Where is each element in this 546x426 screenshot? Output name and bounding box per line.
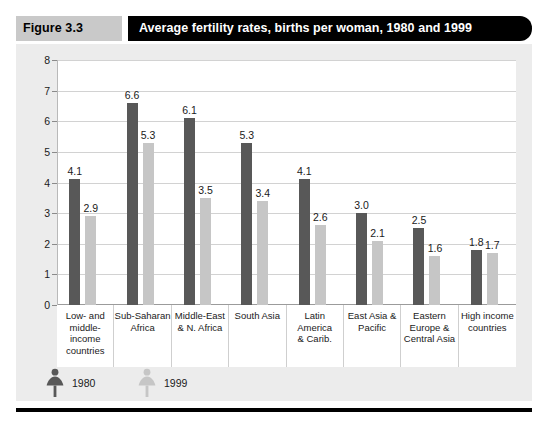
bar-1980 <box>471 250 482 305</box>
y-axis-tick-label: 5 <box>16 147 50 158</box>
bar-1980 <box>413 228 424 305</box>
y-axis-tick-mark <box>52 213 57 214</box>
bottom-rule <box>16 408 532 412</box>
female-figure-icon <box>136 368 158 398</box>
bar-value-label: 2.1 <box>361 228 395 239</box>
x-axis-category-label: Middle-East & N. Africa <box>175 310 225 333</box>
figure-container: Figure 3.3 Average fertility rates, birt… <box>0 0 546 426</box>
legend-label: 1980 <box>72 378 95 389</box>
y-axis-tick-label: 6 <box>16 116 50 127</box>
y-axis-tick-mark <box>52 274 57 275</box>
y-axis-tick-label: 7 <box>16 86 50 97</box>
bar-value-label: 4.1 <box>58 166 92 177</box>
y-axis-tick-label: 0 <box>16 300 50 311</box>
bar-1980 <box>184 118 195 305</box>
y-axis-tick-label: 1 <box>16 269 50 280</box>
chart-panel: 4.12.96.65.36.13.55.33.44.12.63.02.12.51… <box>16 44 532 401</box>
bar-group: 5.33.4 <box>230 60 287 305</box>
bar-1999 <box>257 201 268 305</box>
x-axis-category-label: East Asia & Pacific <box>348 310 397 333</box>
y-axis-tick-mark <box>52 183 57 184</box>
y-axis-tick-mark <box>52 121 57 122</box>
bar-1999 <box>85 216 96 305</box>
y-axis-tick-label: 3 <box>16 208 50 219</box>
x-axis-category-label: Low- and middle- income countries <box>66 310 105 356</box>
y-axis-tick-mark <box>52 152 57 153</box>
bar-group: 4.12.9 <box>58 60 115 305</box>
legend-item-1980: 1980 <box>44 366 95 400</box>
bar-group: 1.81.7 <box>460 60 517 305</box>
x-axis-category-cell: Low- and middle- income countries <box>57 305 114 367</box>
figure-number-label: Figure 3.3 <box>16 16 122 41</box>
bar-1999 <box>143 143 154 305</box>
bar-value-label: 5.3 <box>230 130 264 141</box>
bar-value-label: 1.6 <box>418 243 452 254</box>
bar-1999 <box>372 241 383 305</box>
legend-item-1999: 1999 <box>136 366 187 400</box>
page-title: Average fertility rates, births per woma… <box>139 16 472 41</box>
y-axis-tick-mark <box>52 244 57 245</box>
bar-value-label: 4.1 <box>287 166 321 177</box>
bar-groups: 4.12.96.65.36.13.55.33.44.12.63.02.12.51… <box>58 60 516 305</box>
bar-value-label: 6.6 <box>115 90 149 101</box>
bar-group: 4.12.6 <box>288 60 345 305</box>
x-axis-category-cell: Eastern Europe & Central Asia <box>401 305 458 367</box>
bar-value-label: 3.0 <box>345 200 379 211</box>
y-axis-tick-mark <box>52 91 57 92</box>
x-axis-category-cell: East Asia & Pacific <box>344 305 401 367</box>
bar-1999 <box>487 253 498 305</box>
figure-header: Figure 3.3 Average fertility rates, birt… <box>16 16 532 41</box>
x-axis-category-cell: Latin America & Carib. <box>287 305 344 367</box>
bar-1999 <box>315 225 326 305</box>
bar-value-label: 1.7 <box>475 240 509 251</box>
bar-value-label: 3.5 <box>188 185 222 196</box>
x-axis-category-cell: Middle-East & N. Africa <box>172 305 229 367</box>
bar-group: 3.02.1 <box>345 60 402 305</box>
x-axis-category-cell: South Asia <box>229 305 286 367</box>
bar-value-label: 6.1 <box>172 105 206 116</box>
bar-value-label: 5.3 <box>131 130 165 141</box>
female-figure-icon <box>44 368 66 398</box>
bar-group: 6.65.3 <box>115 60 172 305</box>
bar-1980 <box>69 179 80 305</box>
bar-1980 <box>241 143 252 305</box>
y-axis-tick-label: 8 <box>16 55 50 66</box>
bar-value-label: 2.6 <box>303 212 337 223</box>
x-axis-category-label: Sub-Saharan Africa <box>115 310 171 333</box>
bar-1999 <box>429 256 440 305</box>
bar-value-label: 2.9 <box>74 203 108 214</box>
plot-area: 4.12.96.65.36.13.55.33.44.12.63.02.12.51… <box>57 60 516 305</box>
bar-value-label: 2.5 <box>402 215 436 226</box>
chart-legend: 19801999 <box>44 366 344 400</box>
bar-1999 <box>200 198 211 305</box>
legend-label: 1999 <box>164 378 187 389</box>
x-axis-category-cell: Sub-Saharan Africa <box>114 305 171 367</box>
x-axis-category-label: South Asia <box>235 310 280 322</box>
bar-group: 6.13.5 <box>173 60 230 305</box>
figure-title-bar: Average fertility rates, births per woma… <box>128 16 532 41</box>
bar-value-label: 3.4 <box>246 188 280 199</box>
bar-1980 <box>299 179 310 305</box>
y-axis-tick-mark <box>52 60 57 61</box>
y-axis-tick-label: 4 <box>16 178 50 189</box>
x-axis-category-label: Eastern Europe & Central Asia <box>404 310 455 345</box>
x-axis-category-label: High income countries <box>461 310 514 333</box>
x-axis-category-labels: Low- and middle- income countriesSub-Sah… <box>57 305 516 367</box>
x-axis-category-cell: High income countries <box>459 305 516 367</box>
bar-group: 2.51.6 <box>402 60 459 305</box>
x-axis-category-label: Latin America & Carib. <box>287 310 343 345</box>
y-axis-tick-label: 2 <box>16 239 50 250</box>
